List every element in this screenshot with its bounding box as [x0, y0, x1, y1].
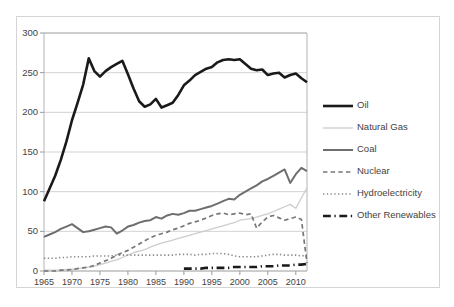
legend-line-sample-icon	[323, 98, 353, 110]
series-line-hydroelectricity	[44, 254, 307, 259]
legend-line-sample-icon	[323, 164, 353, 176]
series-line-other-renewables	[184, 264, 307, 269]
legend-item-label: Natural Gas	[357, 121, 408, 132]
series-line-coal	[44, 168, 307, 237]
series-line-nuclear	[44, 213, 307, 271]
x-axis-tick-label: 2010	[281, 277, 311, 287]
x-axis-tick-label: 1995	[197, 277, 227, 287]
x-axis-tick-label: 1980	[113, 277, 143, 287]
y-axis-tick-label: 0	[14, 266, 38, 276]
legend-line-sample-icon	[323, 208, 353, 220]
legend-line-sample-icon	[323, 120, 353, 132]
y-axis-tick-label: 150	[14, 147, 38, 157]
legend-item-label: Coal	[357, 143, 377, 154]
legend-item-label: Other Renewables	[357, 209, 436, 220]
legend-item-label: Oil	[357, 99, 369, 110]
chart-figure: 0501001502002503001965197019751980198519…	[16, 16, 440, 288]
legend-item-label: Nuclear	[357, 165, 390, 176]
legend-item[interactable]: Other Renewables	[323, 203, 441, 225]
legend-line-sample-icon	[323, 142, 353, 154]
x-axis-tick-label: 2000	[225, 277, 255, 287]
legend-item[interactable]: Oil	[323, 93, 441, 115]
y-axis-tick-label: 100	[14, 187, 38, 197]
legend-item[interactable]: Natural Gas	[323, 115, 441, 137]
y-axis-tick-label: 50	[14, 226, 38, 236]
y-axis-tick-label: 300	[14, 28, 38, 38]
y-axis-tick-label: 250	[14, 68, 38, 78]
x-axis-tick-label: 1970	[57, 277, 87, 287]
chart-legend: OilNatural GasCoalNuclearHydroelectricit…	[323, 93, 441, 225]
x-axis-tick-label: 1975	[85, 277, 115, 287]
legend-item-label: Hydroelectricity	[357, 187, 422, 198]
y-axis-tick-label: 200	[14, 107, 38, 117]
x-axis-tick-label: 2005	[253, 277, 283, 287]
x-axis-tick-label: 1985	[141, 277, 171, 287]
x-axis-tick-label: 1990	[169, 277, 199, 287]
legend-line-sample-icon	[323, 186, 353, 198]
legend-item[interactable]: Hydroelectricity	[323, 181, 441, 203]
x-axis-tick-label: 1965	[29, 277, 59, 287]
legend-item[interactable]: Coal	[323, 137, 441, 159]
legend-item[interactable]: Nuclear	[323, 159, 441, 181]
